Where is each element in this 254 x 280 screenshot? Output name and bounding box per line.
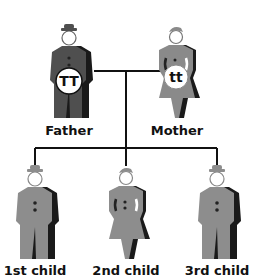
mother-figure: tt (159, 27, 200, 118)
child1-figure (16, 165, 59, 259)
child3-figure (198, 165, 241, 259)
pedigree-diagram: TT Father tt Mother 1st child (0, 0, 254, 280)
mother-genotype: tt (169, 69, 183, 85)
mother-label: Mother (151, 123, 204, 138)
child2-figure (109, 168, 150, 259)
child2-label: 2nd child (92, 263, 159, 278)
father-figure: TT (50, 24, 93, 118)
female-person-icon (109, 168, 150, 259)
father-genotype: TT (59, 73, 79, 89)
father-label: Father (45, 123, 93, 138)
child1-label: 1st child (4, 263, 67, 278)
male-person-icon (198, 165, 241, 259)
male-person-icon (16, 165, 59, 259)
child3-label: 3rd child (185, 263, 249, 278)
